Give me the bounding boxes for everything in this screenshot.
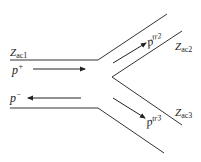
transmitted-lower-label: ptr3 [144, 113, 162, 129]
bifurcation-diagram: Zac1 Zac2 Zac3 p+ p− ptr2 ptr3 [0, 0, 201, 162]
transmitted-upper-arrow [113, 43, 146, 63]
wave-arrows [28, 43, 146, 118]
main-duct-top-wall [10, 14, 167, 60]
reflected-wave-label: p− [9, 90, 21, 105]
incident-wave-label: p+ [11, 62, 23, 77]
main-duct-bottom-wall [10, 108, 164, 153]
impedance-label-main: Zac1 [10, 46, 27, 60]
transmitted-lower-arrow [113, 98, 145, 118]
transmitted-upper-label: ptr2 [145, 31, 164, 49]
impedance-label-upper: Zac2 [175, 40, 192, 54]
impedance-label-lower: Zac3 [175, 106, 192, 120]
